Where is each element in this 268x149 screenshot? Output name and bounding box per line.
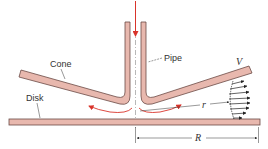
label-R: R: [194, 132, 201, 143]
label-disk: Disk: [26, 93, 44, 103]
disk: [9, 119, 260, 125]
r-leader-right: [210, 102, 229, 104]
pipe-leader: [148, 58, 162, 62]
cone-disk-flow-diagram: r R Cone Pipe V Disk: [0, 0, 268, 149]
velocity-profile-envelope: [230, 81, 234, 119]
pipe-cone-left-wall: [19, 22, 130, 104]
label-pipe: Pipe: [164, 53, 182, 63]
disk-leader: [37, 103, 40, 118]
label-velocity: V: [236, 56, 244, 67]
label-cone: Cone: [50, 59, 72, 69]
label-r: r: [202, 99, 206, 110]
velocity-profile: [229, 81, 250, 119]
cone-leader: [61, 69, 65, 79]
outflow-arrow-left: [89, 106, 132, 113]
